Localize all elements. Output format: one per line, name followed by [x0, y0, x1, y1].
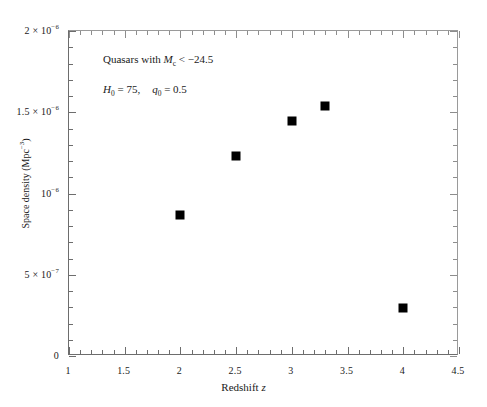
y-tick-right-minor [453, 177, 457, 178]
x-tick-top-major [236, 31, 237, 38]
x-tick-top-minor [303, 31, 304, 35]
y-tick-right-major [450, 275, 457, 276]
x-tick-minor [136, 350, 137, 354]
y-tick-right-minor [453, 259, 457, 260]
y-tick-minor [69, 96, 73, 97]
x-tick-minor [325, 350, 326, 354]
y-tick-minor [69, 145, 73, 146]
x-tick-top-major [403, 31, 404, 38]
x-tick-top-minor [314, 31, 315, 35]
x-tick-major [348, 347, 349, 354]
x-axis-title: Redshift z [0, 381, 487, 393]
x-tick-minor [192, 350, 193, 354]
y-tick-minor [69, 242, 73, 243]
y-tick-right-minor [453, 96, 457, 97]
y-tick-minor [69, 340, 73, 341]
x-tick-top-minor [392, 31, 393, 35]
x-tick-top-minor [158, 31, 159, 35]
data-point-marker [287, 117, 296, 126]
y-tick-right-minor [453, 161, 457, 162]
x-tick-minor [225, 350, 226, 354]
y-axis-title: Space density (Mpc−3) [20, 104, 31, 264]
x-tick-top-minor [169, 31, 170, 35]
x-tick-top-minor [225, 31, 226, 35]
data-point-marker [176, 210, 185, 219]
x-tick-minor [281, 350, 282, 354]
quasar-space-density-chart: 11.522.533.544.5 05 × 10−710−61.5 × 10−6… [0, 0, 487, 407]
x-tick-minor [158, 350, 159, 354]
x-tick-top-minor [136, 31, 137, 35]
x-tick-top-minor [91, 31, 92, 35]
y-tick-right-minor [453, 145, 457, 146]
x-tick-minor [270, 350, 271, 354]
x-tick-label: 3 [288, 365, 293, 376]
y-tick-right-minor [453, 291, 457, 292]
x-tick-top-minor [370, 31, 371, 35]
y-tick-minor [69, 210, 73, 211]
y-tick-minor [69, 177, 73, 178]
y-tick-right-minor [453, 226, 457, 227]
x-tick-top-minor [359, 31, 360, 35]
x-tick-minor [91, 350, 92, 354]
y-tick-right-minor [453, 210, 457, 211]
x-tick-label: 2 [177, 365, 182, 376]
x-tick-minor [314, 350, 315, 354]
x-tick-minor [169, 350, 170, 354]
x-tick-minor [303, 350, 304, 354]
y-tick-right-minor [453, 242, 457, 243]
x-tick-top-minor [270, 31, 271, 35]
x-tick-minor [370, 350, 371, 354]
x-tick-top-minor [80, 31, 81, 35]
y-tick-minor [69, 161, 73, 162]
y-tick-minor [69, 226, 73, 227]
y-tick-right-minor [453, 307, 457, 308]
y-tick-right-major [450, 112, 457, 113]
x-tick-label: 4.5 [451, 365, 464, 376]
x-tick-minor [147, 350, 148, 354]
y-tick-label: 0 [0, 350, 59, 361]
y-tick-minor [69, 80, 73, 81]
y-tick-minor [69, 259, 73, 260]
x-tick-minor [114, 350, 115, 354]
x-tick-minor [414, 350, 415, 354]
x-tick-minor [448, 350, 449, 354]
x-tick-minor [258, 350, 259, 354]
x-tick-top-minor [114, 31, 115, 35]
x-tick-top-minor [102, 31, 103, 35]
x-tick-minor [336, 350, 337, 354]
y-tick-major [69, 275, 76, 276]
x-tick-major [180, 347, 181, 354]
x-tick-top-major [348, 31, 349, 38]
y-tick-right-minor [453, 47, 457, 48]
x-tick-top-minor [325, 31, 326, 35]
x-tick-top-minor [147, 31, 148, 35]
x-tick-major [403, 347, 404, 354]
y-tick-right-minor [453, 129, 457, 130]
x-tick-major [236, 347, 237, 354]
x-tick-top-minor [281, 31, 282, 35]
x-tick-major [292, 347, 293, 354]
y-tick-right-minor [453, 324, 457, 325]
x-tick-label: 3.5 [340, 365, 353, 376]
y-tick-major [69, 356, 76, 357]
y-tick-right-minor [453, 80, 457, 81]
x-tick-top-minor [437, 31, 438, 35]
y-tick-minor [69, 324, 73, 325]
x-tick-minor [80, 350, 81, 354]
x-tick-top-major [459, 31, 460, 38]
data-point-marker [399, 304, 408, 313]
data-point-marker [232, 152, 241, 161]
x-tick-top-minor [448, 31, 449, 35]
plot-area [68, 30, 458, 355]
x-tick-top-minor [214, 31, 215, 35]
x-tick-top-major [125, 31, 126, 38]
x-tick-minor [359, 350, 360, 354]
y-tick-major [69, 112, 76, 113]
y-tick-right-major [450, 31, 457, 32]
x-tick-top-minor [426, 31, 427, 35]
y-tick-major [69, 31, 76, 32]
y-tick-right-major [450, 356, 457, 357]
x-tick-top-minor [336, 31, 337, 35]
x-tick-top-minor [381, 31, 382, 35]
x-tick-label: 2.5 [229, 365, 242, 376]
